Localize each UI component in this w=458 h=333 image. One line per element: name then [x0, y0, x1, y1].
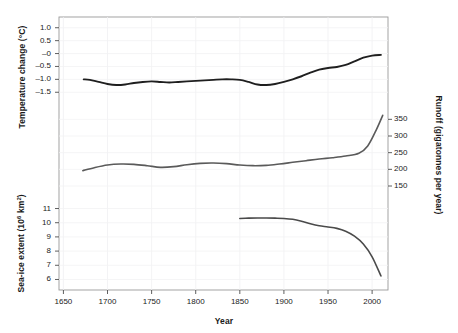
ytick-temperature-4: –1.0	[11, 74, 51, 83]
ytick-temperature-5: –1.5	[11, 87, 51, 96]
plot-canvas	[0, 0, 458, 333]
runoff-axis-title: Runoff (gigatonnes per year)	[434, 90, 444, 220]
xtick-1: 1700	[88, 297, 128, 306]
ytick-runoff-1: 300	[394, 131, 434, 140]
ytick-temperature-2: –0	[11, 49, 51, 58]
xtick-5: 1900	[264, 297, 304, 306]
ytick-sea-ice-1: 10	[11, 218, 51, 227]
xtick-7: 2000	[352, 297, 392, 306]
ytick-temperature-1: 0.5	[11, 36, 51, 45]
ytick-sea-ice-2: 9	[11, 232, 51, 241]
climate-multipanel-chart: Temperature change (°C) Sea-ice extent (…	[0, 0, 458, 333]
ytick-runoff-4: 150	[394, 181, 434, 190]
ytick-sea-ice-4: 7	[11, 260, 51, 269]
xtick-2: 1750	[132, 297, 172, 306]
xtick-3: 1800	[176, 297, 216, 306]
ytick-temperature-0: 1.0	[11, 23, 51, 32]
xtick-0: 1650	[43, 297, 83, 306]
xtick-6: 1950	[308, 297, 348, 306]
ytick-sea-ice-3: 8	[11, 246, 51, 255]
ytick-sea-ice-5: 6	[11, 274, 51, 283]
ytick-runoff-3: 200	[394, 164, 434, 173]
ytick-temperature-3: –0.5	[11, 61, 51, 70]
xtick-4: 1850	[220, 297, 260, 306]
x-axis-title: Year	[59, 316, 389, 326]
ytick-runoff-2: 250	[394, 148, 434, 157]
ytick-sea-ice-0: 11	[11, 204, 51, 213]
ytick-runoff-0: 350	[394, 114, 434, 123]
